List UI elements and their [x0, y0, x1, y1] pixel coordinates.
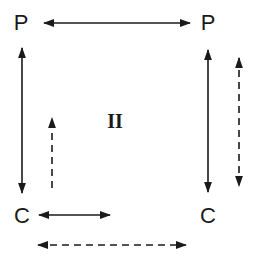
- diagram-canvas: P P C C II: [0, 0, 257, 264]
- node-c-bottom-right: C: [200, 205, 216, 227]
- arrow-layer: [0, 0, 257, 264]
- node-p-top-right: P: [201, 12, 216, 34]
- node-p-top-left: P: [14, 12, 29, 34]
- node-c-bottom-left: C: [14, 205, 30, 227]
- center-roman-label: II: [107, 111, 123, 131]
